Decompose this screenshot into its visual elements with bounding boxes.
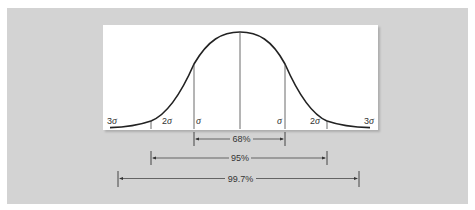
label-minus-2-sigma: 2σ xyxy=(162,115,173,126)
label-95-percent: 95% xyxy=(231,153,249,163)
label-minus-3-sigma: 3σ xyxy=(107,115,118,126)
range-99-7: 99.7% xyxy=(118,171,359,187)
label-99-7-percent: 99.7% xyxy=(228,174,254,184)
range-68: 68% xyxy=(194,132,285,146)
range-95: 95% xyxy=(151,151,327,165)
label-minus-1-sigma: σ xyxy=(196,115,202,126)
label-plus-1-sigma: σ xyxy=(277,115,283,126)
normal-distribution-diagram: 3σ 2σ σ σ 2σ 3σ 68% 95% 99.7% xyxy=(0,0,475,210)
label-plus-2-sigma: 2σ xyxy=(310,115,321,126)
label-68-percent: 68% xyxy=(232,134,250,144)
label-plus-3-sigma: 3σ xyxy=(364,115,375,126)
